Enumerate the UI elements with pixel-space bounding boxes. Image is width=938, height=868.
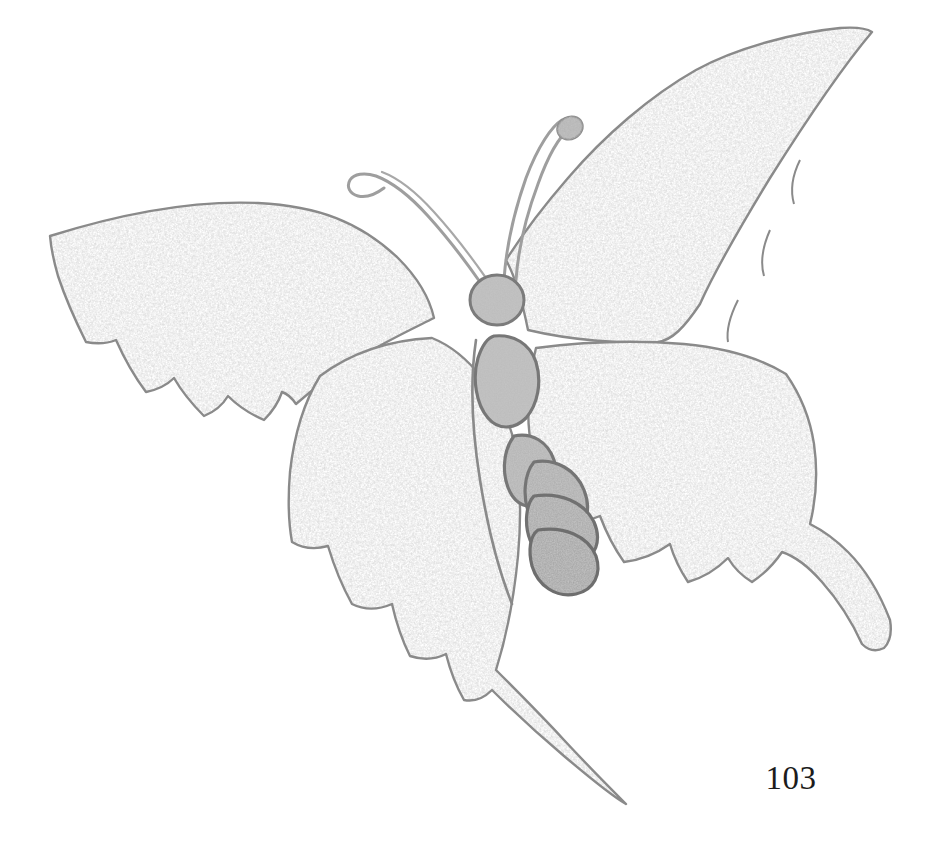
upper-right-wing	[490, 20, 890, 360]
head	[470, 275, 524, 325]
butterfly-figure	[0, 0, 938, 868]
illustration-plate: 103	[0, 0, 938, 868]
page-number: 103	[756, 758, 826, 798]
